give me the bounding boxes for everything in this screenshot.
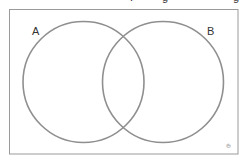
set-a-circle: [23, 22, 144, 143]
credit-mark: ©: [225, 144, 231, 148]
set-b-circle: [103, 22, 224, 143]
set-a-label: A: [32, 26, 39, 37]
universe-frame: [10, 10, 239, 155]
set-b-label: B: [207, 26, 214, 37]
